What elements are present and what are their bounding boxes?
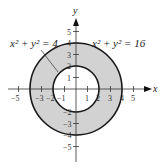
x-tick-label: 2 <box>96 94 100 103</box>
x-tick-label: 1 <box>85 94 89 103</box>
annulus-diagram: x y −5 −3 −2 −1 1 2 3 4 5 1 2 3 4 5 −2 −… <box>0 0 160 168</box>
y-tick-label: 4 <box>67 39 71 48</box>
y-tick-label: 1 <box>67 74 71 83</box>
y-tick-label: −3 <box>63 120 72 129</box>
y-tick-label: 2 <box>67 62 71 71</box>
x-tick-label: −1 <box>57 94 66 103</box>
x-tick-label: 4 <box>120 94 124 103</box>
x-tick-label: 5 <box>131 94 135 103</box>
x-axis-label: x <box>152 83 158 94</box>
x-tick-label: −3 <box>35 94 44 103</box>
y-axis-arrow-icon <box>73 18 79 26</box>
x-tick-label: 3 <box>108 94 112 103</box>
y-tick-label: −2 <box>63 108 72 117</box>
x-tick-label: −2 <box>46 94 55 103</box>
y-tick-label: −5 <box>63 143 72 152</box>
inner-circle-equation: x² + y² = 4 <box>9 37 58 49</box>
y-tick-label: 5 <box>67 28 71 37</box>
y-tick-label: −4 <box>63 131 72 140</box>
y-tick-label: 3 <box>67 51 71 60</box>
outer-circle-equation: x² + y² = 16 <box>91 37 146 49</box>
y-axis-label: y <box>72 5 78 16</box>
x-axis-arrow-icon <box>144 86 152 92</box>
x-tick-label: −5 <box>11 94 20 103</box>
